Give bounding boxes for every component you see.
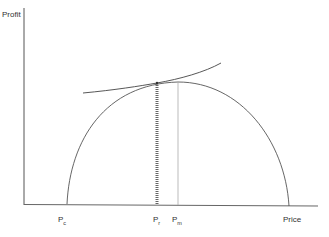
tick-label-pm: Pm (172, 215, 182, 226)
tangent-point (156, 82, 158, 84)
tick-label-pr: Pr (153, 215, 160, 226)
y-axis-label: Profit (2, 10, 21, 19)
tick-label-pc: Pc (58, 215, 66, 226)
tangent-curve (83, 63, 221, 93)
profit-price-diagram (0, 0, 329, 237)
x-axis (24, 205, 318, 207)
x-axis-label: Price (283, 215, 301, 224)
